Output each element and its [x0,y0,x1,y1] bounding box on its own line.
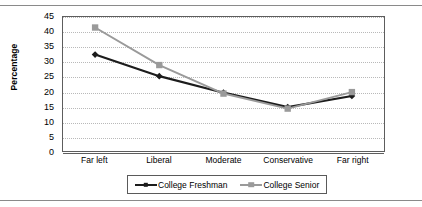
data-point-far-right [349,89,355,95]
y-tick-label-30: 30 [44,57,54,66]
data-point-liberal [156,62,162,68]
line-chart-figure: Percentage 051015202530354045 Far leftLi… [0,0,422,207]
y-tick-label-45: 45 [44,12,54,21]
x-tick-label-moderate: Moderate [206,155,242,166]
top-divider-rule [0,5,422,6]
legend-square-marker-icon [240,180,262,189]
series-layer [63,17,384,152]
x-tick-label-liberal: Liberal [146,155,172,166]
data-point-far-left [92,51,99,58]
legend-marker [144,182,148,186]
chart-legend: College FreshmanCollege Senior [127,175,327,194]
data-point-far-left [92,24,98,30]
y-tick-label-10: 10 [44,117,54,126]
y-tick-label-20: 20 [44,87,54,96]
data-point-conservative [285,105,291,111]
y-axis-tick-labels: 051015202530354045 [0,0,62,168]
series-line [95,55,352,108]
gridline-0 [63,153,384,154]
legend-label: College Senior [263,180,319,190]
legend-entry-college-freshman: College Freshman [135,180,227,190]
legend-diamond-marker-icon [135,180,157,189]
y-tick-label-25: 25 [44,72,54,81]
x-tick-label-conservative: Conservative [263,155,313,166]
legend-label: College Freshman [158,180,227,190]
y-tick-label-40: 40 [44,27,54,36]
legend-entry-college-senior: College Senior [240,180,319,190]
x-tick-label-far-left: Far left [81,155,107,166]
y-tick-label-35: 35 [44,42,54,51]
bottom-divider-rule [0,200,422,201]
y-tick-label-0: 0 [49,148,54,157]
data-point-liberal [156,73,163,80]
legend-marker [249,182,255,188]
series-college-senior [92,24,355,111]
data-point-moderate [220,90,226,96]
y-tick-label-15: 15 [44,102,54,111]
x-tick-label-far-right: Far right [337,155,369,166]
x-axis-tick-labels: Far leftLiberalModerateConservativeFar r… [62,155,385,171]
y-tick-label-5: 5 [49,132,54,141]
plot-area [62,16,385,152]
